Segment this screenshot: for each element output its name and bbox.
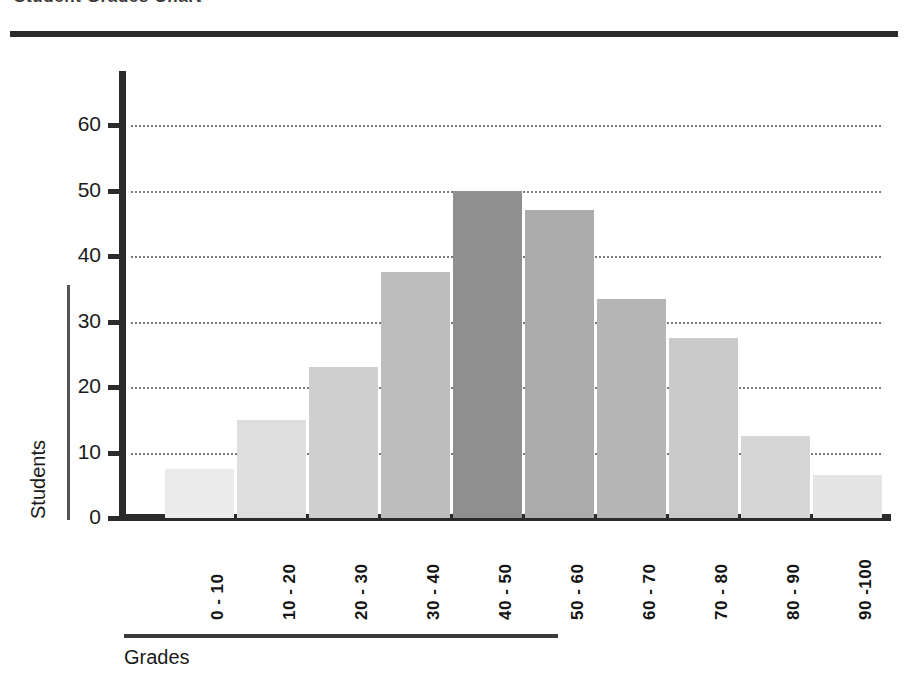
- bar-40-50[interactable]: [453, 191, 522, 519]
- y-axis-tick-label-10: 10: [57, 440, 101, 464]
- bar-50-60[interactable]: [525, 210, 594, 518]
- gridline-60: [131, 125, 881, 127]
- y-axis-tick-label-40: 40: [57, 243, 101, 267]
- y-axis-tick-50: [108, 189, 121, 194]
- bar-0-10[interactable]: [165, 469, 234, 518]
- bar-10-20[interactable]: [237, 420, 306, 518]
- y-axis-title: Students: [27, 440, 50, 519]
- bar-60-70[interactable]: [597, 299, 666, 518]
- bar-90-100[interactable]: [813, 475, 882, 518]
- y-axis-tick-10: [108, 451, 121, 456]
- y-axis-tick-label-60: 60: [57, 112, 101, 136]
- y-axis-tick-20: [108, 385, 121, 390]
- bar-20-30[interactable]: [309, 367, 378, 518]
- x-axis-tick-label-50-60: 50 - 60: [568, 564, 588, 620]
- y-axis-title-rule: [67, 285, 70, 520]
- bar-30-40[interactable]: [381, 272, 450, 518]
- y-axis-tick-30: [108, 320, 121, 325]
- y-axis-tick-40: [108, 254, 121, 259]
- x-axis-title: Grades: [124, 646, 190, 669]
- x-axis-tick-label-60-70: 60 - 70: [640, 564, 660, 620]
- x-axis-tick-label-80-90: 80 - 90: [784, 564, 804, 620]
- x-axis-title-rule: [124, 634, 558, 638]
- bar-80-90[interactable]: [741, 436, 810, 518]
- y-axis-tick-label-30: 30: [57, 309, 101, 333]
- x-axis-tick-label-40-50: 40 - 50: [496, 564, 516, 620]
- x-axis-tick-label-30-40: 30 - 40: [424, 564, 444, 620]
- x-axis-tick-label-10-20: 10 - 20: [280, 564, 300, 620]
- y-axis-tick-label-0: 0: [57, 505, 101, 529]
- y-axis-tick-label-50: 50: [57, 178, 101, 202]
- x-axis-tick-label-90-100: 90 -100: [856, 559, 876, 620]
- x-axis-tick-label-70-80: 70 - 80: [712, 564, 732, 620]
- x-axis-tick-label-20-30: 20 - 30: [352, 564, 372, 620]
- bar-chart-plot: 0102030405060 0 - 1010 - 2020 - 3030 - 4…: [0, 0, 909, 685]
- y-axis-tick-60: [108, 123, 121, 128]
- x-axis-tick-label-0-10: 0 - 10: [208, 574, 228, 620]
- y-axis-tick-label-20: 20: [57, 374, 101, 398]
- bar-70-80[interactable]: [669, 338, 738, 518]
- y-axis-tick-0: [108, 516, 121, 521]
